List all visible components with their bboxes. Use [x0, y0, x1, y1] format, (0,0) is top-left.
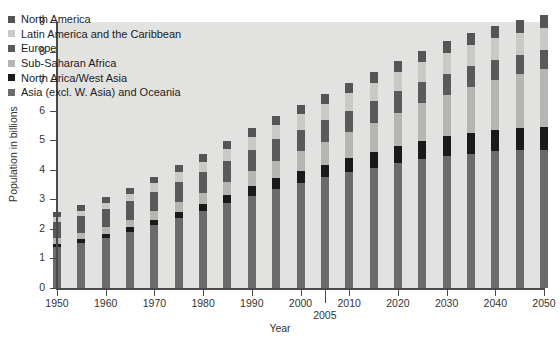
bar-segment — [150, 192, 158, 212]
bar-segment — [77, 239, 85, 242]
bar-segment — [345, 158, 353, 172]
bar-segment — [540, 28, 548, 50]
bar-segment — [540, 15, 548, 28]
bar-segment — [321, 104, 329, 121]
bar-segment — [248, 186, 256, 195]
bar-segment — [272, 161, 280, 179]
bar-segment — [443, 156, 451, 288]
y-tick-label: 1 — [31, 252, 45, 262]
x-tick — [301, 290, 302, 296]
bar-segment — [126, 188, 134, 194]
legend-item: Europe — [8, 41, 181, 56]
x-tick — [252, 290, 253, 296]
bar-segment — [491, 151, 499, 288]
bar — [248, 128, 256, 288]
bar-segment — [77, 233, 85, 239]
x-tick-label: 2040 — [475, 297, 515, 309]
y-tick-label: 2 — [31, 223, 45, 233]
bar — [102, 197, 110, 288]
bar-segment — [248, 150, 256, 171]
x-tick — [495, 290, 496, 296]
bar — [467, 33, 475, 288]
bar — [394, 61, 402, 288]
legend-swatch-icon — [8, 74, 15, 81]
bar-segment — [77, 216, 85, 233]
y-axis-title: Population in billions — [7, 79, 19, 229]
bar-segment — [297, 183, 305, 288]
bar-segment — [491, 38, 499, 60]
bar-segment — [321, 165, 329, 178]
bar — [150, 177, 158, 288]
bar-segment — [272, 125, 280, 139]
bar-segment — [467, 154, 475, 288]
legend-item: Latin America and the Caribbean — [8, 27, 181, 42]
bar-segment — [370, 168, 378, 288]
bar — [491, 26, 499, 288]
x-tick-label: 1970 — [134, 297, 174, 309]
bar-segment — [516, 150, 524, 288]
bar-segment — [467, 33, 475, 45]
legend-item: Asia (excl. W. Asia) and Oceania — [8, 85, 181, 100]
bar-segment — [126, 201, 134, 220]
bar-segment — [394, 146, 402, 163]
bar-segment — [345, 132, 353, 158]
legend-label: Latin America and the Caribbean — [21, 28, 181, 40]
bar — [297, 105, 305, 288]
bar-segment — [150, 211, 158, 220]
bar-segment — [297, 171, 305, 183]
bar-segment — [491, 26, 499, 39]
bar-segment — [199, 154, 207, 161]
bar-segment — [345, 111, 353, 133]
bar — [223, 141, 231, 288]
bar-segment — [394, 91, 402, 112]
bar-segment — [516, 128, 524, 150]
bar-segment — [248, 171, 256, 186]
bar-segment — [370, 72, 378, 83]
bar-segment — [102, 238, 110, 288]
legend-swatch-icon — [8, 45, 15, 52]
y-tick — [50, 229, 57, 230]
bar-segment — [443, 95, 451, 137]
bar-segment — [223, 203, 231, 288]
x-tick — [398, 290, 399, 296]
bar — [272, 116, 280, 288]
legend-label: Asia (excl. W. Asia) and Oceania — [21, 86, 181, 98]
bar — [77, 205, 85, 288]
bar-segment — [540, 69, 548, 126]
bar-segment — [248, 128, 256, 136]
legend-item: Sub-Saharan Africa — [8, 56, 181, 71]
bar-segment — [297, 114, 305, 129]
bar-segment — [126, 220, 134, 228]
bar — [443, 41, 451, 288]
bar-segment — [223, 149, 231, 161]
bar-segment — [394, 113, 402, 146]
x-tick — [57, 290, 58, 296]
bar-segment — [370, 101, 378, 123]
bar — [199, 154, 207, 288]
y-tick — [50, 111, 57, 112]
bar-segment — [418, 103, 426, 141]
bar-segment — [77, 243, 85, 289]
bar-segment — [102, 227, 110, 234]
bar-segment — [223, 161, 231, 182]
bar-segment — [223, 141, 231, 149]
bar-segment — [126, 194, 134, 201]
bar-segment — [516, 20, 524, 33]
bar — [370, 72, 378, 288]
bar-segment — [272, 189, 280, 288]
bar-segment — [175, 202, 183, 212]
y-tick — [50, 258, 57, 259]
y-tick-label: 0 — [31, 282, 45, 292]
bar-segment — [150, 225, 158, 288]
x-tick-label: 1960 — [86, 297, 126, 309]
x-tick-label: 1990 — [232, 297, 272, 309]
legend-swatch-icon — [8, 60, 15, 67]
bar-segment — [248, 196, 256, 289]
bar-segment — [394, 72, 402, 91]
bar-segment — [394, 61, 402, 72]
bar-segment — [491, 80, 499, 130]
x-tick — [447, 290, 448, 296]
chart-legend: North AmericaLatin America and the Carib… — [8, 12, 181, 100]
bar — [126, 188, 134, 288]
y-tick — [50, 288, 57, 289]
